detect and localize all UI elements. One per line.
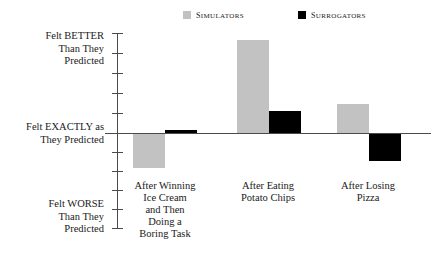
x-axis-label-group-0-line3: Doing a bbox=[105, 216, 225, 228]
bar-surrogators-group-0 bbox=[165, 130, 197, 133]
x-axis-label-group-2-line0: After Losing bbox=[308, 180, 428, 192]
x-axis-label-group-0-line1: Ice Cream bbox=[105, 192, 225, 204]
x-axis-label-group-0-line0: After Winning bbox=[105, 180, 225, 192]
x-axis-label-group-0: After Winning Ice Cream and Then Doing a… bbox=[105, 180, 225, 240]
x-axis-label-group-0-line2: and Then bbox=[105, 204, 225, 216]
x-axis-label-group-0-line4: Boring Task bbox=[105, 228, 225, 240]
affective-forecasting-bar-chart: Simulators Surrogators Felt BETTER Than … bbox=[0, 0, 438, 256]
x-axis-label-group-2: After Losing Pizza bbox=[308, 180, 428, 204]
bar-simulators-group-1 bbox=[237, 40, 269, 133]
bar-surrogators-group-2 bbox=[369, 134, 401, 161]
bar-simulators-group-2 bbox=[337, 104, 369, 133]
x-axis-label-group-2-line1: Pizza bbox=[308, 192, 428, 204]
bar-surrogators-group-1 bbox=[269, 111, 301, 133]
bar-simulators-group-0 bbox=[133, 134, 165, 168]
